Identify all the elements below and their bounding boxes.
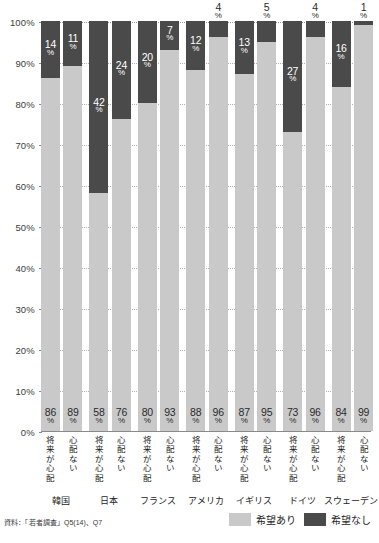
bar-value-label: 89% (63, 408, 82, 425)
bar-segment-no-hope[interactable] (306, 21, 325, 37)
x-axis-question-labels: 将来が心配心配ない将来が心配心配ない将来が心配心配ない将来が心配心配ない将来が心… (41, 434, 371, 496)
bar-segment-hope[interactable]: 76% (112, 119, 131, 431)
bar-column[interactable]: 93%7% (160, 22, 179, 431)
bar-segment-hope[interactable]: 89% (63, 66, 82, 431)
bar-value-label: 13% (235, 38, 254, 55)
bar-value-label: 80% (138, 408, 157, 425)
country-label: スウェーデン (324, 494, 379, 507)
bar-value-label: 93% (160, 408, 179, 425)
bar-segment-no-hope[interactable]: 27% (283, 21, 302, 132)
bar-series-container: 86%14%89%11%58%42%76%24%80%20%93%7%88%12… (42, 22, 371, 431)
bar-segment-no-hope[interactable]: 16% (332, 21, 351, 87)
y-axis-tick-label: 70% (15, 140, 35, 151)
bar-value-label: 99% (354, 408, 373, 425)
x-axis-label-worried: 将来が心配 (238, 436, 247, 483)
bar-column[interactable]: 96%4% (209, 22, 228, 431)
bar-segment-hope[interactable]: 96% (306, 37, 325, 431)
bar-column[interactable]: 87%13% (235, 22, 254, 431)
bar-segment-hope[interactable]: 80% (138, 103, 157, 431)
bar-column[interactable]: 99%1% (354, 22, 373, 431)
bar-value-label: 4% (306, 3, 325, 20)
legend-swatch (304, 513, 326, 526)
bar-segment-hope[interactable]: 84% (332, 87, 351, 431)
x-axis-label-not-worried: 心配ない (115, 436, 124, 474)
bar-value-label: 84% (332, 408, 351, 425)
bar-column[interactable]: 76%24% (112, 22, 131, 431)
y-axis-tick-label: 10% (15, 386, 35, 397)
bar-value-label: 5% (257, 3, 276, 20)
bar-column[interactable]: 58%42% (89, 22, 108, 431)
legend-item[interactable]: 希望なし (304, 512, 371, 527)
x-axis-label-not-worried: 心配ない (358, 436, 367, 474)
bar-segment-no-hope[interactable] (354, 21, 373, 25)
bar-column[interactable]: 84%16% (332, 22, 351, 431)
bar-column[interactable]: 95%5% (257, 22, 276, 431)
country-label: イギリス (227, 494, 282, 507)
bar-value-label: 16% (332, 44, 351, 61)
bar-value-label: 86% (41, 408, 60, 425)
bar-value-label: 95% (257, 408, 276, 425)
y-axis-tick-label: 60% (15, 181, 35, 192)
y-axis-tick-label: 0% (21, 427, 35, 438)
legend-swatch (229, 513, 251, 526)
x-axis-label-not-worried: 心配ない (261, 436, 270, 474)
bar-value-label: 76% (112, 408, 131, 425)
country-label: 日本 (81, 494, 136, 507)
bar-column[interactable]: 80%20% (138, 22, 157, 431)
y-axis-tick-label: 80% (15, 99, 35, 110)
legend-label: 希望なし (331, 512, 371, 527)
chart-legend: 希望あり希望なし (229, 512, 371, 527)
legend-label: 希望あり (256, 512, 296, 527)
bar-value-label: 1% (354, 3, 373, 20)
bar-value-label: 7% (160, 26, 179, 43)
bar-segment-hope[interactable]: 99% (354, 25, 373, 431)
bar-segment-hope[interactable]: 88% (186, 70, 205, 431)
legend-item[interactable]: 希望あり (229, 512, 296, 527)
bar-segment-no-hope[interactable] (257, 21, 276, 42)
bar-value-label: 27% (283, 67, 302, 84)
bar-segment-no-hope[interactable]: 24% (112, 21, 131, 119)
x-axis-label-worried: 将来が心配 (44, 436, 53, 483)
bar-segment-no-hope[interactable]: 14% (41, 21, 60, 78)
bar-column[interactable]: 86%14% (41, 22, 60, 431)
x-axis-label-worried: 将来が心配 (287, 436, 296, 483)
bar-segment-hope[interactable]: 95% (257, 42, 276, 432)
bar-segment-no-hope[interactable]: 20% (138, 21, 157, 103)
bar-column[interactable]: 96%4% (306, 22, 325, 431)
bar-value-label: 87% (235, 408, 254, 425)
bar-segment-no-hope[interactable]: 12% (186, 21, 205, 70)
bar-value-label: 11% (63, 34, 82, 51)
bar-segment-hope[interactable]: 87% (235, 74, 254, 431)
x-axis-label-worried: 将来が心配 (93, 436, 102, 483)
x-axis-label-not-worried: 心配ない (309, 436, 318, 474)
bar-segment-hope[interactable]: 73% (283, 132, 302, 431)
bar-value-label: 73% (283, 408, 302, 425)
bar-segment-no-hope[interactable]: 11% (63, 21, 82, 66)
bar-value-label: 88% (186, 408, 205, 425)
y-axis-tick-label: 20% (15, 345, 35, 356)
bar-segment-no-hope[interactable] (209, 21, 228, 37)
x-axis-label-worried: 将来が心配 (190, 436, 199, 483)
bar-segment-hope[interactable]: 93% (160, 50, 179, 431)
bar-segment-no-hope[interactable]: 13% (235, 21, 254, 74)
bar-segment-no-hope[interactable]: 7% (160, 21, 179, 50)
bar-segment-hope[interactable]: 86% (41, 78, 60, 431)
bar-value-label: 4% (209, 3, 228, 20)
bar-segment-hope[interactable]: 96% (209, 37, 228, 431)
bar-value-label: 42% (89, 98, 108, 115)
bar-column[interactable]: 73%27% (283, 22, 302, 431)
y-axis-tick-label: 50% (15, 222, 35, 233)
y-axis-tick-label: 40% (15, 263, 35, 274)
x-axis-label-not-worried: 心配ない (164, 436, 173, 474)
bar-segment-hope[interactable]: 58% (89, 193, 108, 431)
country-label: フランス (130, 494, 185, 507)
bar-value-label: 12% (186, 36, 205, 53)
bar-segment-no-hope[interactable]: 42% (89, 21, 108, 193)
bar-column[interactable]: 89%11% (63, 22, 82, 431)
x-axis-label-not-worried: 心配ない (212, 436, 221, 474)
bar-value-label: 20% (138, 53, 157, 70)
y-axis-labels: 0%10%20%30%40%50%60%70%80%90%100% (0, 22, 38, 432)
bar-value-label: 96% (209, 408, 228, 425)
bar-column[interactable]: 88%12% (186, 22, 205, 431)
